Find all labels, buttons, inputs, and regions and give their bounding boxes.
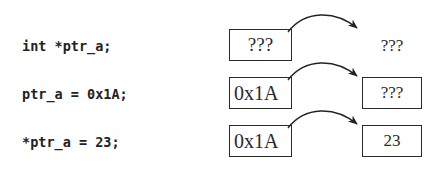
arrow-icon bbox=[288, 111, 357, 128]
pointer-arrows bbox=[0, 0, 440, 170]
arrow-icon bbox=[288, 15, 357, 32]
arrow-icon bbox=[288, 63, 357, 80]
